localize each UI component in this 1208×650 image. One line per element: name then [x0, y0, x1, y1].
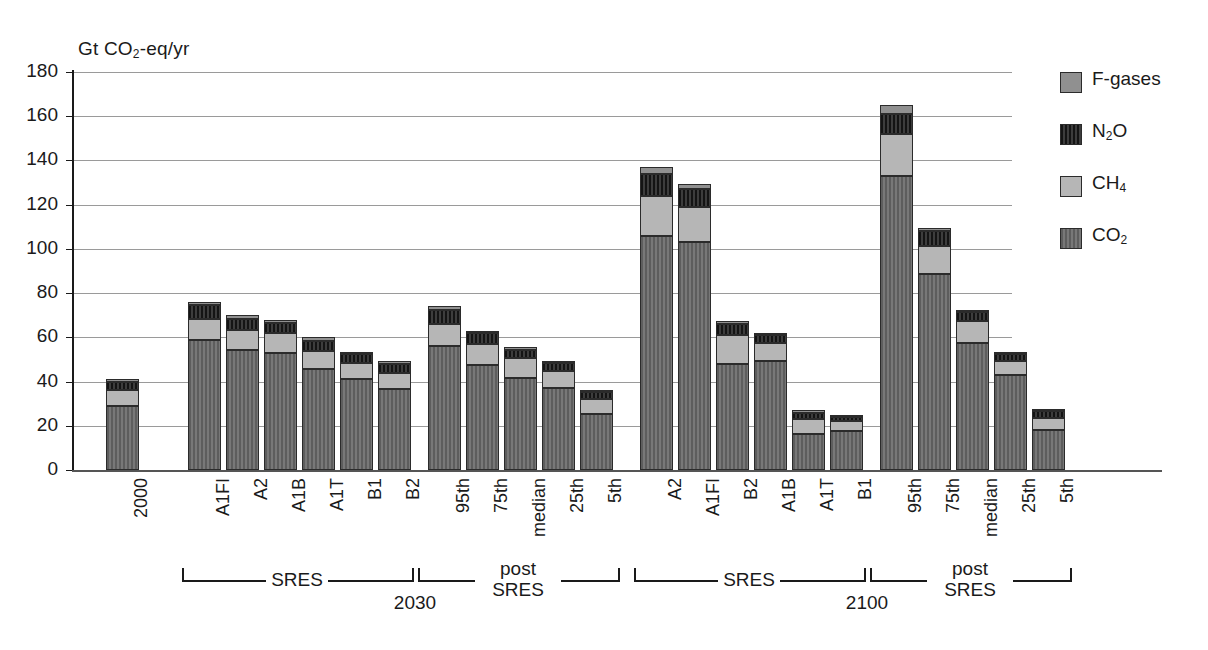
bar-segment-co2: [106, 406, 139, 470]
bar-segment-n2o: [264, 323, 297, 333]
bar-segment-co2: [504, 378, 537, 470]
bar-segment-ch4: [640, 196, 673, 236]
bar[interactable]: [880, 105, 913, 470]
bar[interactable]: [302, 337, 335, 470]
bar-segment-fgas: [302, 337, 335, 340]
legend-label: F-gases: [1092, 68, 1161, 90]
bar-segment-ch4: [428, 324, 461, 346]
legend-swatch-fgas-icon: [1060, 72, 1082, 93]
bar-segment-n2o: [640, 174, 673, 196]
bar-segment-fgas: [428, 306, 461, 309]
bar-segment-fgas: [106, 379, 139, 381]
legend-label: CH4: [1092, 172, 1126, 195]
bar-segment-n2o: [994, 354, 1027, 361]
bar[interactable]: [956, 310, 989, 470]
bar-segment-ch4: [1032, 418, 1065, 430]
bar[interactable]: [830, 416, 863, 470]
bar-segment-co2: [640, 236, 673, 470]
legend-swatch-ch4-icon: [1060, 176, 1082, 197]
bracket-year-label: 2030: [365, 592, 465, 614]
y-axis-tick-label: 160: [18, 104, 58, 126]
bar[interactable]: [1032, 410, 1065, 470]
bar-segment-ch4: [678, 207, 711, 242]
bar-segment-ch4: [378, 373, 411, 390]
legend-item-co2[interactable]: CO2: [1060, 224, 1200, 276]
bar-segment-ch4: [542, 371, 575, 389]
bar-segment-co2: [1032, 430, 1065, 470]
bar[interactable]: [264, 320, 297, 470]
bar[interactable]: [428, 306, 461, 470]
bar-segment-fgas: [716, 321, 749, 324]
legend-swatch-n2o-icon: [1060, 124, 1082, 145]
bar-segment-n2o: [880, 114, 913, 134]
bar-segment-fgas: [678, 184, 711, 190]
bar-segment-co2: [340, 379, 373, 470]
bar-segment-fgas: [1032, 409, 1065, 411]
y-axis-tick-label: 80: [18, 281, 58, 303]
bar-segment-n2o: [428, 310, 461, 324]
bar-segment-fgas: [792, 410, 825, 412]
bar-segment-ch4: [226, 330, 259, 350]
legend-item-ch4[interactable]: CH4: [1060, 172, 1200, 224]
bar-segment-fgas: [754, 333, 787, 335]
bar-segment-co2: [754, 361, 787, 470]
bar[interactable]: [188, 302, 221, 470]
bar-segment-co2: [918, 274, 951, 470]
bracket-label: SRES: [237, 569, 357, 591]
bar-segment-ch4: [264, 333, 297, 353]
bar-segment-n2o: [226, 319, 259, 330]
bar[interactable]: [678, 184, 711, 470]
bar-segment-co2: [264, 353, 297, 470]
legend-item-fgas[interactable]: F-gases: [1060, 68, 1200, 120]
bar-segment-ch4: [994, 361, 1027, 375]
bar[interactable]: [378, 361, 411, 470]
bar[interactable]: [792, 410, 825, 470]
bar-segment-n2o: [504, 350, 537, 359]
legend: F-gasesN2OCH4CO2: [1060, 68, 1200, 276]
bar[interactable]: [542, 361, 575, 470]
bar-segment-n2o: [716, 324, 749, 335]
bar-segment-ch4: [106, 390, 139, 405]
bar-segment-n2o: [1032, 411, 1065, 418]
bar-segment-ch4: [580, 399, 613, 413]
bar[interactable]: [340, 352, 373, 470]
bar-segment-n2o: [378, 364, 411, 373]
bar[interactable]: [918, 228, 951, 470]
y-axis-tick-label: 20: [18, 414, 58, 436]
bar[interactable]: [580, 390, 613, 470]
bar[interactable]: [716, 321, 749, 470]
bracket-end-tick: [1070, 568, 1072, 582]
y-axis-tick-label: 100: [18, 237, 58, 259]
bar-segment-ch4: [956, 321, 989, 343]
bar-segment-co2: [792, 434, 825, 470]
bar-segment-ch4: [754, 343, 787, 361]
bar-segment-fgas: [378, 361, 411, 364]
bracket-end-tick: [412, 568, 414, 582]
bar-segment-fgas: [340, 352, 373, 354]
bracket-year-label: 2100: [817, 592, 917, 614]
bar-segment-n2o: [466, 333, 499, 344]
bar[interactable]: [994, 353, 1027, 470]
bar-segment-n2o: [340, 354, 373, 363]
legend-item-n2o[interactable]: N2O: [1060, 120, 1200, 172]
bar-segment-ch4: [830, 421, 863, 431]
bar[interactable]: [466, 331, 499, 470]
bar[interactable]: [754, 333, 787, 470]
y-axis-unit-post: -eq/yr: [140, 38, 190, 59]
x-axis-line: [72, 470, 1162, 472]
bar-segment-ch4: [340, 363, 373, 380]
bar-segment-co2: [188, 340, 221, 470]
bar[interactable]: [226, 315, 259, 470]
bar-segment-n2o: [792, 413, 825, 420]
y-axis-tick-label: 40: [18, 370, 58, 392]
bar-segment-co2: [302, 369, 335, 470]
bar-segment-fgas: [580, 390, 613, 392]
bar[interactable]: [640, 167, 673, 470]
bar-segment-fgas: [830, 415, 863, 417]
bracket-end-tick: [864, 568, 866, 582]
bar-segment-ch4: [716, 335, 749, 364]
bar[interactable]: [106, 379, 139, 470]
legend-label: CO2: [1092, 224, 1127, 247]
bar[interactable]: [504, 347, 537, 470]
bar-segment-co2: [880, 176, 913, 470]
